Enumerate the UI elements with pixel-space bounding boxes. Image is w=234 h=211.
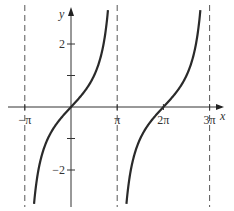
y-arrow-icon bbox=[68, 7, 74, 16]
x-tick-label: 3π bbox=[204, 113, 216, 127]
x-tick-label: 2π bbox=[157, 113, 169, 127]
y-tick-label: −2 bbox=[52, 163, 65, 177]
y-axis-label: y bbox=[58, 7, 65, 21]
x-axis-label: x bbox=[219, 109, 226, 123]
tangent-chart: −ππ2π3π2−2 x y bbox=[0, 0, 234, 211]
x-tick-label: −π bbox=[18, 113, 31, 127]
axes bbox=[8, 7, 224, 207]
y-tick-label: 2 bbox=[59, 37, 65, 51]
x-tick-label: π bbox=[114, 113, 120, 127]
